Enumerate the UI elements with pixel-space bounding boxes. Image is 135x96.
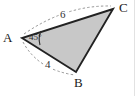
- vertex-label-c: C: [119, 1, 128, 14]
- vertex-label-a: A: [3, 31, 12, 44]
- geometry-figure: A B C 6 4 45°: [0, 0, 135, 96]
- vertex-label-b: B: [74, 76, 83, 89]
- triangle-diagram-svg: [0, 0, 135, 96]
- side-length-label-ab: 4: [44, 59, 52, 70]
- angle-label-a: 45°: [29, 33, 42, 42]
- side-length-label-ac: 6: [59, 9, 67, 20]
- right-edge-divider: [134, 0, 135, 96]
